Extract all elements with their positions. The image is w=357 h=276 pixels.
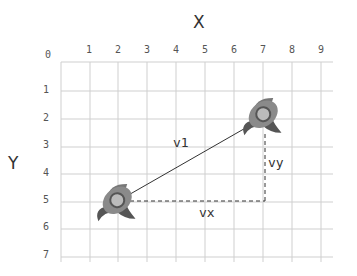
x-tick: 3 xyxy=(139,44,155,55)
y-tick: 6 xyxy=(38,221,54,232)
x-tick: 1 xyxy=(81,44,97,55)
y-tick: 1 xyxy=(38,84,54,95)
y-tick: 4 xyxy=(38,167,54,178)
vx-label: vx xyxy=(199,205,215,220)
grid xyxy=(61,62,333,262)
x-tick: 8 xyxy=(284,44,300,55)
x-tick: 9 xyxy=(313,44,329,55)
origin-label: 0 xyxy=(40,49,56,60)
x-tick: 5 xyxy=(197,44,213,55)
y-axis-title: Y xyxy=(8,153,18,173)
x-tick: 2 xyxy=(110,44,126,55)
v1-label: v1 xyxy=(173,135,189,150)
x-tick: 7 xyxy=(255,44,271,55)
x-axis-title: X xyxy=(193,12,205,32)
rocket-icon xyxy=(234,93,294,152)
y-tick: 5 xyxy=(38,194,54,205)
vy-label: vy xyxy=(268,155,284,170)
y-tick: 7 xyxy=(38,249,54,260)
y-tick: 3 xyxy=(38,139,54,150)
x-tick: 4 xyxy=(168,44,184,55)
vector-v1 xyxy=(118,118,263,201)
x-tick: 6 xyxy=(226,44,242,55)
y-tick: 2 xyxy=(38,112,54,123)
